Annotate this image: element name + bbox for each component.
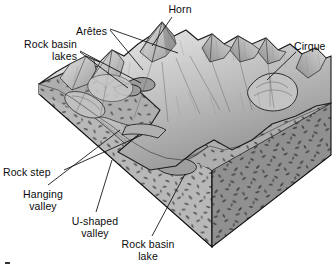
leader-u-shaped-valley xyxy=(96,160,112,212)
label-cirque: Cirque xyxy=(294,40,336,52)
label-u-shaped-valley: U-shaped valley xyxy=(66,215,124,239)
label-aretes: Arêtes xyxy=(60,25,107,37)
glacial-landforms-figure: Horn Arêtes Rock basin lakes Cirque Rock… xyxy=(0,0,336,269)
corner-artifact-mark xyxy=(5,262,10,264)
label-rock-basin-lakes: Rock basin lakes xyxy=(15,38,77,62)
label-hanging-valley: Hanging valley xyxy=(17,188,69,212)
label-rock-basin-lake: Rock basin lake xyxy=(115,238,181,262)
label-horn: Horn xyxy=(161,3,199,15)
label-rock-step: Rock step xyxy=(3,166,61,178)
